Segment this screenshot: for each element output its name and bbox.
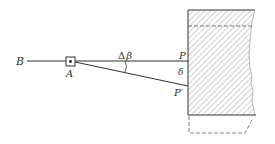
bottom-dashed-box [189,116,253,133]
label-delta-beta: Δβ [118,50,132,61]
diagram-canvas: B A Δβ P δ P′ [0,0,275,144]
angle-arc-delta-beta [125,61,127,72]
label-b: B [15,55,24,68]
delta-symbol: Δ [118,50,125,61]
label-delta: δ [178,67,183,77]
station-center-dot [69,60,72,63]
label-p: P [178,50,186,61]
beta-symbol: β [125,50,132,61]
label-a: A [65,68,73,79]
label-p-prime: P′ [173,87,184,98]
line-a-to-p-prime [75,62,188,86]
